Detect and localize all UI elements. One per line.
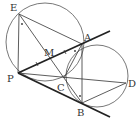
geometry-diagram: E A M P C D B	[0, 0, 137, 121]
label-e: E	[10, 2, 17, 13]
tangent-pa	[18, 31, 110, 73]
segment-ep	[18, 14, 19, 73]
tangent-pb	[18, 73, 110, 117]
segment-bd	[82, 83, 126, 103]
label-p: P	[7, 73, 14, 84]
label-a: A	[83, 32, 92, 43]
angle-mark-e	[21, 23, 23, 25]
angle-mark-a	[74, 50, 76, 52]
label-d: D	[128, 78, 136, 89]
angle-mark-b	[79, 95, 81, 97]
label-m: M	[44, 47, 54, 58]
circle-acbd	[66, 45, 128, 107]
label-b: B	[77, 107, 84, 118]
segment-ea	[19, 14, 82, 44]
segment-ec	[19, 14, 64, 78]
label-c: C	[57, 82, 65, 93]
